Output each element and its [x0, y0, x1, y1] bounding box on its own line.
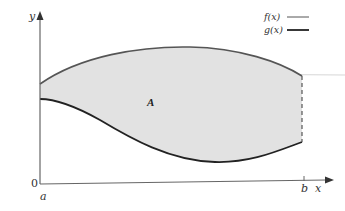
- area-between-curves-diagram: y x 0 a b A f(x) g(x): [0, 0, 345, 211]
- x-axis: [40, 180, 326, 184]
- legend-label-g: g(x): [264, 24, 283, 35]
- y-axis-label: y: [28, 10, 36, 23]
- x-tick-label-b: b: [301, 182, 308, 195]
- legend: f(x) g(x): [263, 11, 309, 35]
- x-axis-label: x: [315, 182, 322, 195]
- x-tick-label-a: a: [40, 190, 47, 203]
- y-axis-arrow-icon: [37, 11, 44, 20]
- region-label: A: [146, 96, 154, 108]
- origin-label: 0: [31, 177, 38, 190]
- legend-label-f: f(x): [263, 11, 281, 22]
- x-axis-arrow-icon: [325, 177, 334, 184]
